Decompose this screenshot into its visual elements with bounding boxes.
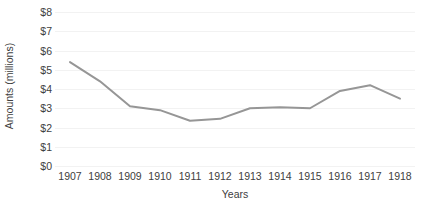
x-tick-label: 1911 (179, 170, 202, 182)
chart-title (0, 0, 422, 3)
y-tick-label: $4 (40, 83, 52, 95)
y-axis-tick-labels: $0$1$2$3$4$5$6$7$8 (18, 12, 54, 166)
y-tick-label: $0 (40, 160, 52, 172)
x-tick-label: 1917 (358, 170, 381, 182)
x-tick-label: 1910 (148, 170, 171, 182)
data-series-line (55, 12, 415, 166)
series-amounts-polyline (70, 62, 400, 121)
y-tick-label: $8 (40, 6, 52, 18)
y-tick-label: $5 (40, 64, 52, 76)
x-tick-label: 1912 (208, 170, 231, 182)
y-axis-title-label: Amounts (millions) (3, 43, 15, 129)
y-tick-label: $2 (40, 122, 52, 134)
x-axis-tick-labels: 1907190819091910191119121913191419151916… (55, 170, 415, 186)
x-tick-label: 1918 (388, 170, 411, 182)
y-tick-label: $3 (40, 102, 52, 114)
y-tick-label: $6 (40, 45, 52, 57)
x-tick-label: 1909 (118, 170, 141, 182)
x-tick-label: 1916 (328, 170, 351, 182)
x-tick-label: 1907 (58, 170, 81, 182)
x-axis-title: Years (55, 188, 415, 200)
x-tick-label: 1908 (88, 170, 111, 182)
y-axis-title: Amounts (millions) (0, 0, 18, 172)
line-chart: Amounts (millions) $0$1$2$3$4$5$6$7$8 19… (0, 0, 422, 205)
gridline (55, 166, 415, 167)
y-tick-label: $7 (40, 25, 52, 37)
y-tick-label: $1 (40, 141, 52, 153)
x-tick-label: 1915 (298, 170, 321, 182)
plot-area (55, 12, 415, 166)
x-tick-label: 1913 (238, 170, 261, 182)
x-tick-label: 1914 (268, 170, 291, 182)
